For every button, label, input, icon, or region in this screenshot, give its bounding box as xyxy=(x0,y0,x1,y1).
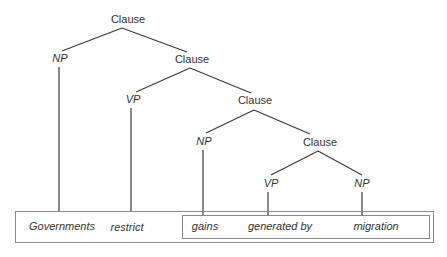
node-np-agent: NP xyxy=(354,177,369,189)
node-clause-root: Clause xyxy=(111,13,145,25)
edge-root-clause2 xyxy=(122,28,187,52)
edge-clause3-np xyxy=(206,110,254,133)
node-np-object: NP xyxy=(196,135,211,147)
node-clause-3: Clause xyxy=(238,94,272,106)
word-gains: gains xyxy=(192,220,218,232)
edge-root-np xyxy=(62,28,122,51)
edge-clause4-np xyxy=(318,151,362,175)
edge-clause3-clause4 xyxy=(254,110,310,134)
node-np-subject: NP xyxy=(52,52,67,64)
word-generated-by: generated by xyxy=(248,220,312,232)
node-clause-4: Clause xyxy=(303,136,337,148)
word-governments: Governments xyxy=(29,220,95,232)
node-vp-1: VP xyxy=(126,93,141,105)
node-clause-2: Clause xyxy=(175,53,209,65)
edge-clause2-vp xyxy=(136,68,190,92)
edge-clause4-vp xyxy=(271,151,318,175)
word-restrict: restrict xyxy=(111,221,144,233)
node-vp-2: VP xyxy=(264,177,279,189)
word-migration: migration xyxy=(353,220,398,232)
edge-clause2-clause3 xyxy=(190,68,251,93)
